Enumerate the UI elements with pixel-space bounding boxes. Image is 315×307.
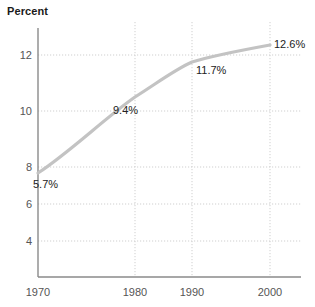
x-tick-label-1970: 1970: [13, 286, 63, 298]
data-label-2000: 12.6%: [274, 38, 305, 50]
y-tick-label-8: 8: [8, 161, 32, 173]
data-label-1980: 9.4%: [113, 104, 138, 116]
data-label-1970: 5.7%: [33, 178, 58, 190]
plot-area: [0, 0, 315, 307]
chart-container: Percent 12 10 8 6 4 1970 1980 1990 2000: [0, 0, 315, 307]
horizontal-gridlines: [38, 55, 301, 241]
data-label-1990: 11.7%: [196, 64, 226, 76]
x-tick-label-1980: 1980: [110, 286, 160, 298]
x-tick-label-1990: 1990: [167, 286, 217, 298]
data-series-line: [38, 45, 270, 173]
x-tick-label-2000: 2000: [245, 286, 295, 298]
y-tick-label-4: 4: [8, 235, 32, 247]
y-tick-label-10: 10: [8, 105, 32, 117]
y-tick-label-12: 12: [8, 49, 32, 61]
y-tick-label-6: 6: [8, 198, 32, 210]
